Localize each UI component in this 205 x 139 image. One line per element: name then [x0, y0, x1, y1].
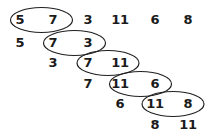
value-cell: 11 [177, 118, 199, 132]
value-cell: 3 [77, 36, 99, 50]
value-cell: 6 [109, 97, 131, 111]
value-cell: 8 [177, 97, 199, 111]
value-cell: 11 [109, 77, 131, 91]
value-cell: 11 [144, 97, 166, 111]
value-cell: 5 [9, 36, 31, 50]
diagram-canvas: 5731168573371171166118811 [0, 0, 205, 139]
value-cell: 7 [77, 56, 99, 70]
value-cell: 7 [77, 77, 99, 91]
value-cell: 3 [42, 56, 64, 70]
value-cell: 7 [42, 13, 64, 27]
value-cell: 11 [109, 13, 131, 27]
value-cell: 5 [9, 13, 31, 27]
value-cell: 3 [77, 13, 99, 27]
value-cell: 8 [144, 118, 166, 132]
value-cell: 11 [109, 56, 131, 70]
value-cell: 6 [144, 77, 166, 91]
value-cell: 7 [42, 36, 64, 50]
value-cell: 6 [144, 13, 166, 27]
value-cell: 8 [177, 13, 199, 27]
